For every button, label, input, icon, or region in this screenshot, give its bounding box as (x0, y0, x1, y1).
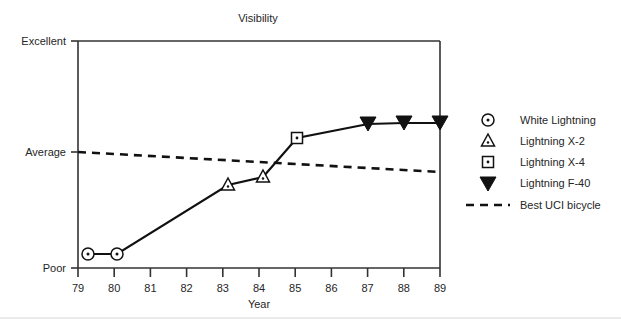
chart-title: Visibility (238, 12, 278, 24)
x-tick-label-86: 86 (325, 282, 337, 294)
y-tick-label-average: Average (25, 146, 66, 158)
legend-label-lightning-x2: Lightning X-2 (520, 135, 585, 147)
y-tick-label-poor: Poor (43, 262, 67, 274)
data-point-marker (292, 133, 303, 144)
square-dot-marker-icon (483, 157, 494, 168)
data-point-marker (82, 248, 94, 260)
circle-dot-marker-icon (482, 114, 494, 126)
x-tick-label-85: 85 (289, 282, 301, 294)
data-point-marker (111, 248, 123, 260)
y-tick-label-excellent: Excellent (21, 35, 66, 47)
x-tick-label-88: 88 (398, 282, 410, 294)
legend-label-lightning-x4: Lightning X-4 (520, 156, 585, 168)
x-axis-label: Year (248, 298, 271, 310)
x-tick-label-82: 82 (180, 282, 192, 294)
legend-label-best-uci-bicycle: Best UCI bicycle (520, 199, 601, 211)
x-tick-label-83: 83 (217, 282, 229, 294)
legend-label-white-lightning: White Lightning (520, 114, 596, 126)
series-markers-lightning-x4 (292, 133, 303, 144)
chart-figure: Visibility Excellent Average Poor (0, 0, 621, 326)
x-tick-label-87: 87 (361, 282, 373, 294)
x-tick-label-80: 80 (108, 282, 120, 294)
x-tick-label-81: 81 (144, 282, 156, 294)
x-tick-label-89: 89 (434, 282, 446, 294)
legend-label-lightning-f40: Lightning F-40 (520, 177, 590, 189)
x-tick-label-79: 79 (72, 282, 84, 294)
x-tick-label-84: 84 (253, 282, 265, 294)
